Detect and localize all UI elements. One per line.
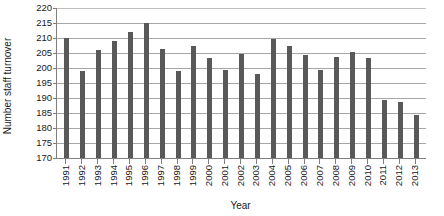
bar-slot: [329, 8, 345, 158]
x-tick-label: 2007: [315, 165, 325, 186]
x-tickmark: [399, 159, 400, 164]
bar: [128, 32, 133, 158]
bar: [176, 71, 181, 158]
bar-chart: Number staff turnover 220215210205200195…: [0, 0, 444, 216]
x-tick-slot: [407, 159, 423, 164]
bar-slot: [392, 8, 408, 158]
bar: [207, 58, 212, 159]
bar-slot: [107, 8, 123, 158]
x-tick-label: 2011: [378, 165, 388, 185]
x-axis-tick-labels: 1991199219931994199519961997199819992000…: [56, 165, 425, 199]
x-tickmark: [113, 159, 114, 164]
bar-slot: [59, 8, 75, 158]
x-label-slot: 2012: [391, 165, 407, 199]
x-tickmark: [256, 159, 257, 164]
x-tick-label: 2006: [299, 165, 309, 186]
x-tick-label: 2013: [410, 165, 420, 186]
bar-slot: [313, 8, 329, 158]
x-tick-slot: [360, 159, 376, 164]
x-tick-label: 2012: [394, 165, 404, 186]
bar-slot: [138, 8, 154, 158]
bar-slot: [123, 8, 139, 158]
x-tickmark: [81, 159, 82, 164]
x-tick-label: 1992: [77, 165, 87, 186]
x-tick-slot: [90, 159, 106, 164]
x-tickmark: [415, 159, 416, 164]
bar-slot: [297, 8, 313, 158]
x-tickmark: [65, 159, 66, 164]
x-tick-slot: [74, 159, 90, 164]
x-tick-label: 1994: [109, 165, 119, 186]
x-tickmark: [383, 159, 384, 164]
y-tick-label: 210: [36, 33, 52, 43]
y-axis-title: Number staff turnover: [1, 6, 15, 166]
bar: [334, 57, 339, 158]
y-tick-label: 190: [36, 93, 52, 103]
x-label-slot: 2009: [344, 165, 360, 199]
bar-slot: [75, 8, 91, 158]
y-tick-label: 200: [36, 63, 52, 73]
x-label-slot: 2004: [264, 165, 280, 199]
x-tickmark: [129, 159, 130, 164]
bar-slot: [377, 8, 393, 158]
x-tick-label: 1996: [140, 165, 150, 186]
x-tickmark: [192, 159, 193, 164]
bar: [64, 38, 69, 158]
x-axis-title: Year: [56, 200, 425, 211]
y-tick-label: 195: [36, 78, 52, 88]
x-tick-label: 1997: [156, 165, 166, 186]
bar-slot: [154, 8, 170, 158]
y-tickmark: [53, 83, 57, 84]
x-tick-slot: [344, 159, 360, 164]
y-tickmark: [53, 98, 57, 99]
x-tick-slot: [137, 159, 153, 164]
y-tick-label: 180: [36, 123, 52, 133]
y-tick-label: 185: [36, 108, 52, 118]
x-tickmark: [335, 159, 336, 164]
x-tick-label: 1998: [172, 165, 182, 186]
x-label-slot: 2001: [217, 165, 233, 199]
x-tickmark: [224, 159, 225, 164]
x-tick-label: 2001: [220, 165, 230, 186]
bar-slot: [281, 8, 297, 158]
bar-slot: [345, 8, 361, 158]
x-tickmark: [288, 159, 289, 164]
bar: [318, 70, 323, 159]
x-tick-slot: [169, 159, 185, 164]
bar-series: [57, 8, 426, 158]
y-tick-label: 175: [36, 138, 52, 148]
x-tick-slot: [328, 159, 344, 164]
x-label-slot: 1997: [153, 165, 169, 199]
x-tickmark: [208, 159, 209, 164]
y-tick-label: 170: [36, 153, 52, 163]
x-tickmark: [161, 159, 162, 164]
x-label-slot: 2013: [407, 165, 423, 199]
x-tick-slot: [201, 159, 217, 164]
bar: [287, 46, 292, 159]
bar: [255, 74, 260, 158]
x-label-slot: 1992: [74, 165, 90, 199]
x-axis-tickmarks: [56, 159, 425, 164]
bar: [303, 55, 308, 159]
x-tick-slot: [122, 159, 138, 164]
x-tick-slot: [217, 159, 233, 164]
x-tick-label: 2010: [363, 165, 373, 186]
x-tickmark: [97, 159, 98, 164]
bar: [191, 46, 196, 159]
x-tick-label: 2005: [283, 165, 293, 186]
x-label-slot: 2008: [328, 165, 344, 199]
y-tickmark: [53, 68, 57, 69]
x-tickmark: [272, 159, 273, 164]
x-tickmark: [304, 159, 305, 164]
x-tick-label: 1995: [124, 165, 134, 186]
x-tick-slot: [376, 159, 392, 164]
bar: [382, 100, 387, 159]
bar: [366, 58, 371, 159]
x-tick-label: 2008: [331, 165, 341, 186]
x-tick-label: 2009: [347, 165, 357, 186]
x-label-slot: 1995: [122, 165, 138, 199]
y-tick-label: 205: [36, 48, 52, 58]
y-tickmark: [53, 53, 57, 54]
bar-slot: [250, 8, 266, 158]
x-tickmark: [177, 159, 178, 164]
